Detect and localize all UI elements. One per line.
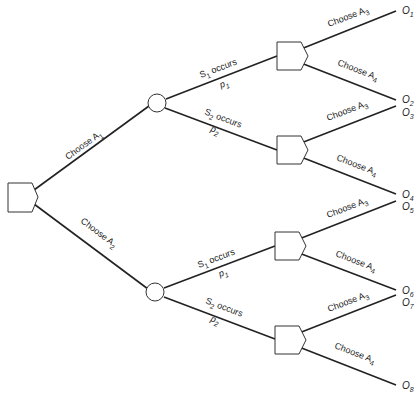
edge-choose-a2: [34, 204, 148, 289]
outcome-o8: O8: [402, 380, 414, 393]
decision-node-2: [277, 136, 308, 164]
label-choice-4: Choose A4: [335, 153, 379, 180]
outcome-o2: O2: [402, 94, 414, 107]
label-choice-3: Choose A3: [325, 98, 369, 125]
chance-node-a1: [148, 94, 166, 112]
label-choice-2: Choose A4: [336, 58, 380, 85]
label-lower-p2: p2: [208, 313, 222, 328]
label-upper-p1: p1: [217, 77, 231, 92]
decision-tree-diagram: Choose A1 Choose A2 S1 occurs p1 S2 occu…: [0, 0, 420, 400]
outcome-o3: O3: [402, 107, 414, 120]
outcome-o7: O7: [402, 297, 415, 310]
label-choice-7: Choose A3: [326, 289, 370, 316]
label-choose-a1: Choose A1: [63, 128, 105, 163]
label-upper-s2: S2 occurs: [203, 107, 244, 132]
label-lower-p1: p1: [216, 266, 230, 281]
decision-node-1: [277, 42, 308, 70]
decision-node-3: [275, 232, 306, 260]
edge-choose-a1: [34, 106, 149, 190]
label-choice-1: Choose A3: [326, 4, 370, 31]
label-choice-6: Choose A4: [334, 249, 378, 276]
outcome-o1: O1: [402, 5, 414, 18]
outcome-o5: O5: [402, 201, 414, 214]
label-lower-s2: S2 occurs: [204, 296, 245, 321]
chance-node-a2: [146, 283, 164, 301]
decision-node-4: [275, 326, 306, 354]
root-decision-node: [8, 183, 38, 212]
label-choice-5: Choose A3: [325, 195, 369, 222]
label-choose-a2: Choose A2: [78, 216, 120, 251]
